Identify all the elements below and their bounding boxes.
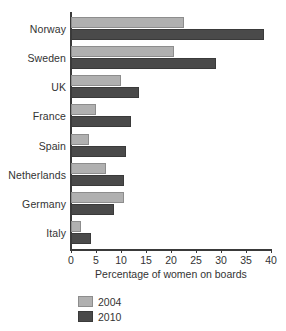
category-label-uk: UK (51, 81, 66, 93)
category-label-france: France (33, 110, 66, 122)
category-row: Netherlands (71, 160, 271, 189)
bar-uk-2004 (71, 75, 121, 86)
x-tick-label: 5 (93, 254, 99, 266)
bar-sweden-2010 (71, 58, 216, 69)
x-tick (71, 249, 72, 253)
x-tick-label: 35 (240, 254, 252, 266)
bar-germany-2010 (71, 204, 114, 215)
plot-area: NorwaySwedenUKFranceSpainNetherlandsGerm… (71, 14, 271, 248)
x-tick (221, 249, 222, 253)
x-tick-label: 15 (140, 254, 152, 266)
x-tick (271, 249, 272, 253)
x-tick (146, 249, 147, 253)
bar-netherlands-2004 (71, 163, 106, 174)
bar-uk-2010 (71, 87, 139, 98)
x-tick-label: 10 (115, 254, 127, 266)
category-row: Germany (71, 190, 271, 219)
legend-swatch-2010 (78, 311, 93, 322)
x-tick (96, 249, 97, 253)
x-tick (171, 249, 172, 253)
category-label-sweden: Sweden (27, 52, 66, 64)
legend-swatch-2004 (78, 296, 93, 307)
legend-label-2010: 2010 (98, 311, 121, 323)
bar-germany-2004 (71, 192, 124, 203)
chart-legend: 20042010 (78, 294, 121, 324)
category-row: France (71, 102, 271, 131)
x-tick (196, 249, 197, 253)
bar-italy-2004 (71, 221, 81, 232)
bar-sweden-2004 (71, 46, 174, 57)
legend-label-2004: 2004 (98, 296, 121, 308)
category-row: Italy (71, 219, 271, 248)
x-tick (246, 249, 247, 253)
x-tick-label: 25 (190, 254, 202, 266)
x-tick-label: 40 (265, 254, 277, 266)
bar-norway-2004 (71, 17, 184, 28)
category-row: Sweden (71, 43, 271, 72)
bar-chart: NorwaySwedenUKFranceSpainNetherlandsGerm… (0, 0, 286, 331)
bar-france-2010 (71, 116, 131, 127)
category-row: Norway (71, 14, 271, 43)
category-label-norway: Norway (30, 23, 66, 35)
legend-item-2010: 2010 (78, 309, 121, 324)
x-tick (121, 249, 122, 253)
bar-norway-2010 (71, 29, 264, 40)
bar-france-2004 (71, 104, 96, 115)
x-axis-title: Percentage of women on boards (71, 268, 271, 280)
x-tick-label: 30 (215, 254, 227, 266)
category-label-netherlands: Netherlands (8, 169, 66, 181)
bar-netherlands-2010 (71, 175, 124, 186)
bar-spain-2010 (71, 146, 126, 157)
category-label-germany: Germany (22, 198, 66, 210)
category-row: Spain (71, 131, 271, 160)
bar-spain-2004 (71, 134, 89, 145)
category-label-spain: Spain (39, 140, 66, 152)
x-tick-label: 20 (165, 254, 177, 266)
x-tick-label: 0 (68, 254, 74, 266)
bar-italy-2010 (71, 233, 91, 244)
category-label-italy: Italy (46, 227, 66, 239)
legend-item-2004: 2004 (78, 294, 121, 309)
category-row: UK (71, 73, 271, 102)
